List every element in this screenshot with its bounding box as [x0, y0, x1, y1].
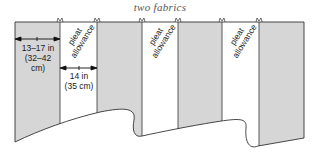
main-fabric-panel-1: [15, 22, 60, 152]
main-width-label: 13–17 in (32–42 cm): [15, 43, 61, 73]
main-fabric-panel-2: [97, 22, 142, 152]
pleat-width-label: 14 in (35 cm): [60, 71, 98, 91]
main-fabric-panel-4: [259, 22, 304, 152]
main-fabric-panel-3: [178, 22, 222, 152]
